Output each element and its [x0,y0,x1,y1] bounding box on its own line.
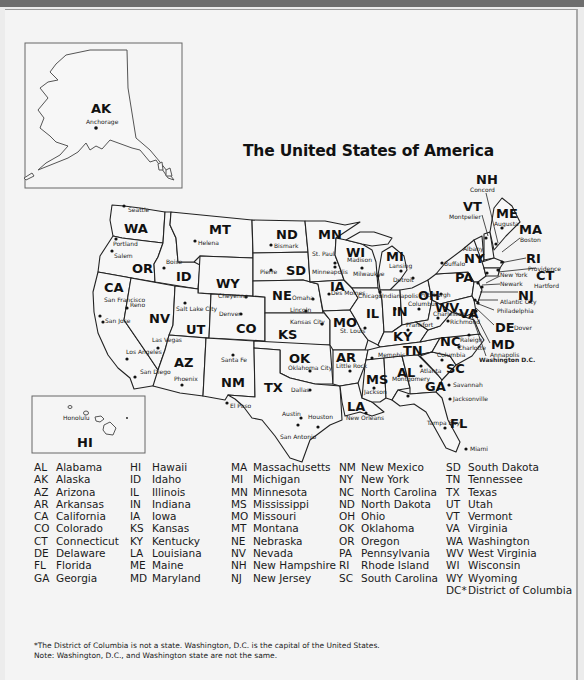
svg-text:Boise: Boise [166,258,183,265]
legend-item: MIMichigan [231,473,336,485]
legend-item: NJNew Jersey [231,572,336,584]
legend-item: ARArkansas [34,498,119,510]
state-label-id: ID [176,269,192,284]
svg-text:Houston: Houston [308,413,333,420]
svg-text:Atlanta: Atlanta [420,367,442,374]
legend-item: INIndiana [130,498,202,510]
legend-item: VAVirginia [446,522,572,534]
svg-text:Boston: Boston [520,236,541,243]
state-label-wy: WY [216,276,240,291]
svg-text:Newark: Newark [500,280,523,287]
svg-text:Raleigh: Raleigh [460,336,483,344]
svg-text:Detroit: Detroit [393,276,414,283]
legend-item: NYNew York [339,473,438,485]
svg-text:Bismark: Bismark [274,242,299,249]
state-label-nh: NH [476,172,498,187]
legend-item: MTMontana [231,522,336,534]
legend-item: TXTexas [446,486,572,498]
legend-item: AKAlaska [34,473,119,485]
svg-text:Columbus: Columbus [408,300,438,307]
svg-text:Atlantic City: Atlantic City [500,298,537,306]
legend-item: WIWisconsin [446,559,572,571]
state-label-il: IL [366,306,379,321]
state-label-mt: MT [209,222,231,237]
legend-item: PAPennsylvania [339,547,438,559]
svg-text:Kansas City: Kansas City [290,318,325,326]
legend-item: NENebraska [231,535,336,547]
state-label-az: AZ [174,355,194,370]
state-label-co: CO [236,321,257,336]
city-label-honolulu: Honolulu [63,414,90,421]
legend-column-4: NMNew Mexico NYNew York NCNorth Carolina… [339,461,438,584]
legend-item: TNTennessee [446,473,572,485]
state-label-nd: ND [276,227,298,242]
svg-text:Jackson: Jackson [363,388,387,396]
state-label-mn: MN [318,227,342,242]
legend-item: NVNevada [231,547,336,559]
legend-item: CACalifornia [34,510,119,522]
legend-item: GAGeorgia [34,572,119,584]
svg-text:New Orleans: New Orleans [346,414,384,421]
svg-text:Salt Lake City: Salt Lake City [176,305,218,313]
svg-text:Austin: Austin [282,410,301,417]
capital-label: Washington D.C. [479,356,535,364]
legend-item: WAWashington [446,535,572,547]
state-label-ri: RI [526,251,541,266]
svg-text:St. Louis: St. Louis [340,327,365,334]
svg-text:Dover: Dover [514,324,533,331]
legend-item: MAMassachusetts [231,461,336,473]
svg-text:Albany: Albany [463,245,484,253]
state-label-la: LA [347,399,365,414]
svg-text:Minneapolis: Minneapolis [312,268,348,276]
svg-text:Seattle: Seattle [128,206,150,213]
state-label-ne: NE [272,288,292,303]
legend-item: MSMississippi [231,498,336,510]
state-label-ak: AK [91,101,112,116]
state-label-or: OR [132,261,153,276]
legend-item: KSKansas [130,522,202,534]
svg-text:Santa Fe: Santa Fe [221,356,247,363]
svg-text:Tampa Bay: Tampa Bay [426,419,460,427]
state-label-nm: NM [221,375,245,390]
svg-text:Salem: Salem [114,252,133,259]
svg-text:Charleston: Charleston [433,310,466,317]
state-label-ny: NY [464,251,485,266]
svg-text:Los Angeles: Los Angeles [126,348,162,356]
svg-text:Philadelphia: Philadelphia [497,307,534,315]
svg-text:El Paso: El Paso [230,402,252,409]
state-label-pa: PA [455,270,473,285]
legend-item: SDSouth Dakota [446,461,572,473]
legend-item: HIHawaii [130,461,202,473]
legend-item: AZArizona [34,486,119,498]
footnote-line-1: *The District of Columbia is not a state… [34,641,380,651]
legend-item: WYWyoming [446,572,572,584]
state-label-me: ME [496,206,518,221]
svg-text:Phoenix: Phoenix [174,375,198,382]
legend-item: DC*District of Columbia [446,584,572,596]
footnote-line-2: Note: Washington, D.C., and Washington s… [34,651,380,661]
state-label-tn: TN [403,343,423,358]
svg-text:Augusta: Augusta [494,220,519,228]
state-label-ma: MA [519,222,542,237]
svg-text:Helena: Helena [198,239,219,246]
svg-text:Jacksonville: Jacksonville [452,395,488,403]
state-label-ut: UT [186,322,206,337]
svg-text:San Antonio: San Antonio [280,433,317,440]
alaska-island [158,162,163,170]
state-label-ks: KS [278,327,297,342]
svg-text:San Diego: San Diego [140,368,171,376]
svg-text:Miami: Miami [470,445,488,452]
hawaii-island [68,406,72,409]
state-label-ca: CA [104,280,124,295]
svg-text:Reno: Reno [130,301,145,308]
legend-item: WVWest Virginia [446,547,572,559]
state-label-tx: TX [264,380,283,395]
state-label-wa: WA [124,221,148,236]
svg-text:Chicago: Chicago [358,292,382,300]
state-label-ky: KY [393,329,413,344]
svg-text:Columbia: Columbia [437,351,466,358]
state-label-ms: MS [366,372,388,387]
svg-text:Savannah: Savannah [453,381,483,388]
map-title: The United States of America [243,142,494,160]
svg-text:Las Vegas: Las Vegas [152,336,182,344]
